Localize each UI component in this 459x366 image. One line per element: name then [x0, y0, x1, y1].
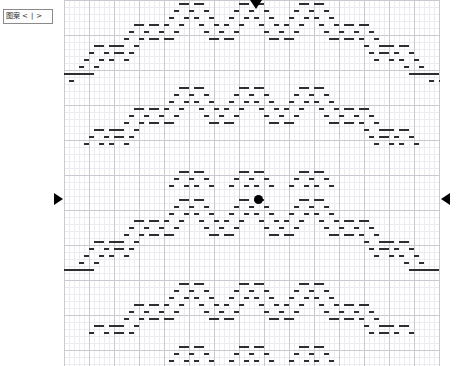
stitch-cell[interactable] [394, 136, 399, 138]
stitch-cell[interactable] [374, 255, 379, 257]
stitch-cell[interactable] [404, 66, 409, 68]
triangle-right-icon[interactable] [54, 193, 63, 205]
stitch-cell[interactable] [269, 360, 274, 362]
stitch-cell[interactable] [274, 220, 279, 222]
stitch-cell[interactable] [209, 297, 214, 299]
stitch-cell[interactable] [269, 101, 274, 103]
stitch-cell[interactable] [214, 108, 219, 110]
stitch-cell[interactable] [274, 122, 279, 124]
stitch-cell[interactable] [184, 213, 189, 215]
stitch-cell[interactable] [164, 220, 169, 222]
stitch-cell[interactable] [289, 38, 294, 40]
stitch-cell[interactable] [184, 199, 189, 201]
stitch-cell[interactable] [144, 227, 149, 229]
stitch-cell[interactable] [384, 136, 389, 138]
stitch-cell[interactable] [329, 318, 334, 320]
stitch-cell[interactable] [389, 129, 394, 131]
stitch-cell[interactable] [399, 143, 404, 145]
stitch-cell[interactable] [279, 227, 284, 229]
stitch-cell[interactable] [354, 115, 359, 117]
stitch-cell[interactable] [224, 220, 229, 222]
stitch-cell[interactable] [244, 283, 249, 285]
stitch-cell[interactable] [94, 45, 99, 47]
stitch-cell[interactable] [169, 101, 174, 103]
stitch-cell[interactable] [114, 136, 119, 138]
stitch-cell[interactable] [279, 115, 284, 117]
stitch-cell[interactable] [224, 108, 229, 110]
stitch-cell[interactable] [339, 115, 344, 117]
stitch-cell[interactable] [199, 3, 204, 5]
stitch-cell[interactable] [339, 227, 344, 229]
stitch-cell[interactable] [164, 108, 169, 110]
stitch-cell[interactable] [409, 73, 414, 75]
stitch-cell[interactable] [369, 52, 374, 54]
stitch-cell[interactable] [294, 311, 299, 313]
stitch-cell[interactable] [234, 206, 239, 208]
stitch-cell[interactable] [239, 87, 244, 89]
stitch-cell[interactable] [119, 325, 124, 327]
stitch-cell[interactable] [94, 241, 99, 243]
stitch-cell[interactable] [354, 31, 359, 33]
stitch-cell[interactable] [364, 241, 369, 243]
stitch-cell[interactable] [199, 24, 204, 26]
stitch-cell[interactable] [239, 3, 244, 5]
stitch-cell[interactable] [134, 220, 139, 222]
stitch-cell[interactable] [84, 59, 89, 61]
stitch-cell[interactable] [79, 262, 84, 264]
stitch-cell[interactable] [229, 360, 234, 362]
stitch-cell[interactable] [119, 136, 124, 138]
stitch-cell[interactable] [214, 234, 219, 236]
stitch-cell[interactable] [384, 45, 389, 47]
stitch-cell[interactable] [284, 304, 289, 306]
stitch-cell[interactable] [329, 17, 334, 19]
stitch-cell[interactable] [134, 24, 139, 26]
stitch-cell[interactable] [139, 38, 144, 40]
stitch-cell[interactable] [309, 206, 314, 208]
stitch-cell[interactable] [179, 220, 184, 222]
stitch-cell[interactable] [174, 115, 179, 117]
stitch-cell[interactable] [129, 115, 134, 117]
stitch-cell[interactable] [234, 115, 239, 117]
stitch-cell[interactable] [369, 136, 374, 138]
stitch-cell[interactable] [269, 185, 274, 187]
stitch-cell[interactable] [89, 136, 94, 138]
stitch-cell[interactable] [319, 220, 324, 222]
stitch-cell[interactable] [299, 304, 304, 306]
stitch-cell[interactable] [229, 122, 234, 124]
stitch-cell[interactable] [304, 297, 309, 299]
stitch-cell[interactable] [209, 185, 214, 187]
stitch-cell[interactable] [159, 227, 164, 229]
stitch-cell[interactable] [284, 220, 289, 222]
stitch-cell[interactable] [199, 171, 204, 173]
stitch-cell[interactable] [264, 31, 269, 33]
stitch-cell[interactable] [204, 227, 209, 229]
stitch-cell[interactable] [159, 311, 164, 313]
stitch-cell[interactable] [304, 101, 309, 103]
stitch-cell[interactable] [239, 199, 244, 201]
stitch-cell[interactable] [244, 297, 249, 299]
stitch-cell[interactable] [264, 311, 269, 313]
stitch-cell[interactable] [119, 45, 124, 47]
prev-pattern-button[interactable]: < [21, 12, 29, 21]
stitch-cell[interactable] [129, 31, 134, 33]
stitch-cell[interactable] [229, 101, 234, 103]
stitch-cell[interactable] [369, 248, 374, 250]
stitch-cell[interactable] [174, 206, 179, 208]
stitch-cell[interactable] [89, 269, 94, 271]
stitch-cell[interactable] [244, 213, 249, 215]
stitch-cell[interactable] [239, 108, 244, 110]
stitch-cell[interactable] [239, 283, 244, 285]
stitch-cell[interactable] [389, 59, 394, 61]
stitch-cell[interactable] [149, 122, 154, 124]
stitch-cell[interactable] [319, 283, 324, 285]
stitch-cell[interactable] [174, 353, 179, 355]
stitch-cell[interactable] [184, 101, 189, 103]
stitch-cell[interactable] [394, 332, 399, 334]
stitch-cell[interactable] [414, 269, 419, 271]
stitch-cell[interactable] [204, 353, 209, 355]
stitch-cell[interactable] [289, 122, 294, 124]
stitch-cell[interactable] [314, 17, 319, 19]
stitch-cell[interactable] [244, 171, 249, 173]
stitch-cell[interactable] [299, 87, 304, 89]
stitch-cell[interactable] [139, 318, 144, 320]
